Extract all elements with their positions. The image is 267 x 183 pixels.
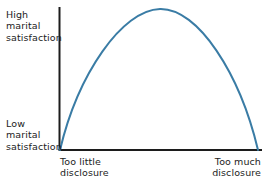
x-axis-label-too-much: Too much disclosure	[212, 156, 261, 179]
chart-figure: High marital satisfaction Low marital sa…	[0, 0, 267, 183]
curve-marital-satisfaction	[60, 9, 258, 150]
y-axis-label-high: High marital satisfaction	[6, 9, 58, 43]
y-axis-label-low: Low marital satisfaction	[6, 118, 58, 152]
x-axis-label-too-little: Too little disclosure	[60, 156, 109, 179]
